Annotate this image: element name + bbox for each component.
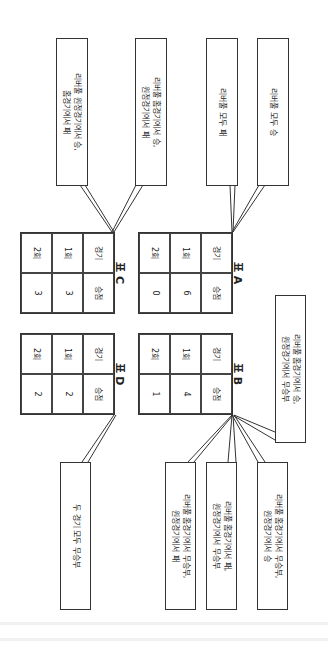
row-label-1: 1회: [180, 247, 191, 259]
callout-text: 리버풀 홈경기에서 승, 원정경기에서 무승부: [280, 334, 302, 405]
callout-top-1: 리버풀 원정경기에서 승, 홈경기에서 패: [56, 38, 88, 186]
value-1: 3: [63, 290, 72, 295]
table-b: 경기 승점 1회 4 2회 1: [138, 333, 233, 415]
header-points: 승점: [211, 286, 222, 300]
header-points: 승점: [93, 387, 104, 401]
value-2: 2: [32, 391, 41, 396]
row-label-1: 1회: [62, 348, 73, 360]
callout-bottom-3: 리버풀 홈경기에서 패, 원정경기에서 무승부: [206, 462, 237, 610]
row-label-1: 1회: [180, 348, 191, 360]
table-c: 경기 승점 1회 3 2회 3: [20, 232, 115, 314]
header-game: 경기: [211, 246, 222, 260]
callout-bottom-1: 두 경기 모두 무승부: [60, 462, 91, 610]
value-1: 4: [181, 391, 190, 396]
callout-text: 리버풀 홈경기에서 패, 원정경기에서 무승부: [211, 501, 233, 572]
callout-text: 두 경기 모두 무승부: [70, 504, 81, 568]
callout-text: 리버풀 홈경기에서 무승부, 원정경기에서 패: [170, 494, 192, 579]
row-label-2: 2회: [149, 348, 160, 360]
callout-top-3: 리버풀 모두 패: [206, 38, 238, 186]
table-d-label: 표 D: [113, 363, 129, 386]
header-game: 경기: [93, 347, 104, 361]
value-2: 3: [32, 290, 41, 295]
row-label-2: 2회: [31, 247, 42, 259]
callout-text: 리버풀 모두 패: [217, 88, 228, 135]
callout-bottom-4: 리버풀 홈경기에서 무승부, 원정경기에서 승: [257, 462, 288, 610]
callout-text: 리버풀 홈경기에서 승, 원정경기에서 패: [140, 77, 162, 148]
value-1: 6: [181, 290, 190, 295]
value-1: 2: [63, 391, 72, 396]
callout-text: 리버풀 모두 승: [268, 88, 279, 135]
row-label-2: 2회: [31, 348, 42, 360]
header-points: 승점: [93, 286, 104, 300]
table-a: 경기 승점 1회 6 2회 0: [138, 232, 233, 314]
callout-top-2: 리버풀 홈경기에서 승, 원정경기에서 패: [135, 38, 167, 186]
table-c-label: 표 C: [113, 262, 129, 284]
table-a-label: 표 A: [231, 262, 247, 284]
table-b-label: 표 B: [231, 363, 247, 385]
callout-bottom-2: 리버풀 홈경기에서 무승부, 원정경기에서 패: [165, 462, 196, 610]
header-game: 경기: [93, 246, 104, 260]
header-game: 경기: [211, 347, 222, 361]
table-d: 경기 승점 1회 2 2회 2: [20, 333, 115, 415]
value-2: 0: [150, 290, 159, 295]
callout-text: 리버풀 홈경기에서 무승부, 원정경기에서 승: [262, 494, 284, 579]
callout-text: 리버풀 원정경기에서 승, 홈경기에서 패: [61, 73, 83, 151]
header-points: 승점: [211, 387, 222, 401]
row-label-2: 2회: [149, 247, 160, 259]
callout-right: 리버풀 홈경기에서 승, 원정경기에서 무승부: [275, 295, 306, 443]
row-label-1: 1회: [62, 247, 73, 259]
background-line: [0, 622, 328, 625]
background-line: [0, 638, 328, 641]
callout-top-4: 리버풀 모두 승: [257, 38, 289, 186]
value-2: 1: [150, 391, 159, 396]
